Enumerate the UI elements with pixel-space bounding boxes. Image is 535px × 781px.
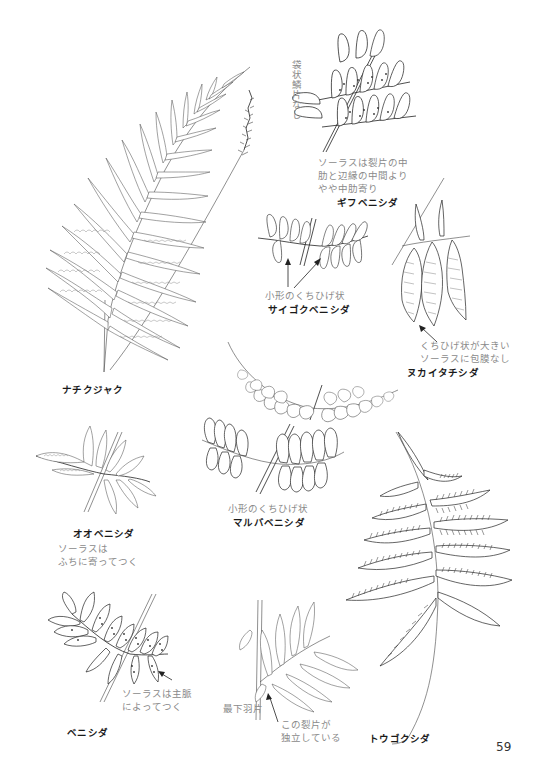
- specimen-note-oobenishida-2: ふちに寄ってつく: [58, 556, 138, 568]
- specimen-name-benishida: ベニシダ: [67, 727, 108, 739]
- tougokushida-illustration: [346, 432, 512, 744]
- specimen-name-nukaitachishida: ヌカイタチシダ: [407, 367, 479, 379]
- curved-pinna-illustration: [228, 342, 398, 424]
- specimen-note-gifubenishida-1: ソーラスは裂片の中: [318, 157, 408, 169]
- arrow-icon: [158, 671, 172, 680]
- nachikujaku-illustration: [46, 67, 254, 372]
- specimen-name-gifubenishida: ギフベニシダ: [337, 197, 399, 209]
- specimen-note-nukaitachishida-2: ソーラスに包膜なし: [420, 353, 510, 365]
- specimen-name-marubabenishida: マルバベニシダ: [233, 517, 305, 529]
- specimen-note-benishida-2: によってつく: [122, 701, 182, 713]
- field-guide-page: ナチクジャク 袋状鱗片なし ソーラスは裂片の中 肋と辺縁の中間より やや中肋寄り…: [0, 0, 535, 781]
- specimen-note-gifubenishida-2: 肋と辺縁の中間より: [318, 170, 408, 182]
- specimen-note-nukaitachishida-1: くちひげ状が大きい: [420, 340, 510, 352]
- marubabenishida-illustration: [202, 418, 344, 494]
- specimen-name-tougokushida: トウゴクシダ: [369, 733, 431, 745]
- arrow-icon: [266, 693, 278, 722]
- saigokubenishida-illustration: [258, 213, 368, 288]
- gifubenishida-illustration: [292, 30, 416, 152]
- arrow-icon: [285, 258, 321, 288]
- specimen-note-marubabenishida: 小形のくちひげ状: [228, 503, 308, 515]
- nukaitachishida-illustration: [392, 178, 470, 342]
- benishida-illustration: [48, 592, 172, 702]
- specimen-note-oobenishida-1: ソーラスは: [58, 543, 108, 555]
- specimen-note-saigokubenishida: 小形のくちひげ状: [265, 290, 345, 302]
- lowest-pinna-note-2: 独立している: [281, 732, 341, 744]
- specimen-note-benishida-1: ソーラスは主脈: [122, 688, 192, 700]
- oobenishida-illustration: [36, 426, 156, 514]
- page-number: 59: [496, 740, 511, 755]
- specimen-vertical-note-gifubenishida: 袋状鱗片なし: [291, 60, 301, 120]
- lowest-pinna-side-label: 最下羽片: [223, 703, 263, 715]
- specimen-note-gifubenishida-3: やや中肋寄り: [318, 183, 378, 195]
- specimen-name-nachikujaku: ナチクジャク: [62, 384, 124, 396]
- specimen-name-oobenishida: オオベニシダ: [73, 528, 135, 540]
- specimen-name-saigokubenishida: サイゴクベニシダ: [268, 304, 350, 316]
- lowest-pinna-note-1: この裂片が: [281, 719, 331, 731]
